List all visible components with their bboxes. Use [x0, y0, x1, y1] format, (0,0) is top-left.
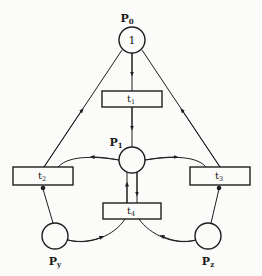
place-p0: P0 1 — [119, 12, 145, 53]
arc-p1-t3 — [145, 157, 206, 167]
place-pz-label: Pz — [202, 255, 214, 269]
transition-t4: t4 — [103, 203, 161, 219]
petri-net-diagram: P0 1 P1 Py Pz t1 t2 t3 — [0, 0, 262, 276]
inhibitor-arc-pz-t3 — [211, 186, 221, 223]
transition-t2: t2 — [13, 167, 73, 185]
token-count: 1 — [129, 34, 136, 47]
arc-p1-t2 — [58, 157, 119, 167]
place-pz: Pz — [195, 223, 221, 269]
place-py-label: Py — [49, 255, 62, 269]
place-p0-label: P0 — [120, 12, 133, 26]
inhibitor-arc-py-t2 — [41, 186, 53, 223]
place-p1: P1 — [109, 136, 145, 173]
transition-t3: t3 — [190, 167, 250, 185]
arc-t2-p0 — [44, 50, 122, 167]
place-py: Py — [42, 223, 68, 269]
transition-t1: t1 — [102, 91, 162, 107]
arc-pz-t4 — [139, 219, 196, 242]
arc-t3-p0 — [142, 50, 220, 167]
arc-py-t4 — [68, 219, 125, 242]
place-p1-label: P1 — [109, 136, 122, 150]
